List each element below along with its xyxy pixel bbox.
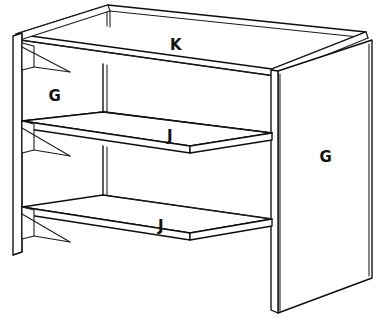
label-j-middle-shelf: J bbox=[166, 127, 173, 145]
label-j-bottom-shelf: J bbox=[157, 217, 164, 235]
left-panel-edge-face bbox=[13, 33, 22, 255]
middle-shelf-left-tab bbox=[22, 121, 34, 153]
right-panel-front-thickness bbox=[271, 70, 278, 313]
shelf-assembly-diagram: K G J G J bbox=[0, 0, 383, 332]
middle-shelf-part-j bbox=[22, 112, 272, 156]
bottom-shelf-part-j bbox=[22, 195, 272, 242]
label-g-left-panel: G bbox=[49, 87, 62, 105]
left-side-panel-part-g bbox=[13, 33, 22, 255]
top-left-bracket-face bbox=[22, 43, 34, 70]
top-panel-left-bracket bbox=[22, 43, 70, 72]
label-k-top-panel: K bbox=[170, 36, 183, 54]
bottom-shelf-left-tab bbox=[22, 207, 34, 239]
diagram-canvas: K G J G J bbox=[0, 0, 383, 332]
label-g-right-panel: G bbox=[320, 148, 333, 166]
right-panel-outer-face bbox=[278, 40, 372, 313]
right-side-panel-part-g bbox=[271, 40, 372, 313]
